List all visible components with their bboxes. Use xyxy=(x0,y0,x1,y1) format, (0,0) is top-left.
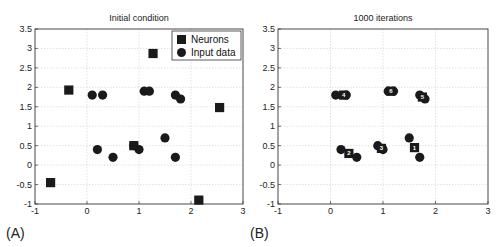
y-tick-label: 1 xyxy=(27,121,32,131)
y-tick-label: 3 xyxy=(270,43,275,53)
input-data-point xyxy=(160,133,169,142)
input-data-point xyxy=(145,87,154,96)
neuron-point xyxy=(64,85,73,94)
y-tick-label: -1 xyxy=(267,199,275,209)
input-data-point xyxy=(98,91,107,100)
figure: -10123-1-0.500.511.522.533.5Initial cond… xyxy=(0,0,502,247)
y-tick-label: -0.5 xyxy=(16,180,32,190)
y-tick-label: 2 xyxy=(27,82,32,92)
x-tick-label: 2 xyxy=(433,206,438,216)
legend-circle-icon xyxy=(177,48,186,57)
input-data-point xyxy=(108,153,117,162)
legend-label-input-data: Input data xyxy=(191,47,236,58)
y-tick-label: 1.5 xyxy=(262,102,275,112)
x-tick-label: 1 xyxy=(380,206,385,216)
x-tick-label: -1 xyxy=(31,206,39,216)
x-tick-label: 0 xyxy=(328,206,333,216)
legend-label-neurons: Neurons xyxy=(191,34,229,45)
y-tick-label: 3 xyxy=(27,43,32,53)
x-tick-label: 2 xyxy=(188,206,193,216)
input-data-point xyxy=(405,133,414,142)
input-data-point xyxy=(331,91,340,100)
neuron-point xyxy=(148,49,157,58)
x-tick-label: 3 xyxy=(240,206,245,216)
panel-a-initial-condition: -10123-1-0.500.511.522.533.5Initial cond… xyxy=(6,13,246,241)
panel-b-1000-iterations: -10123-1-0.500.511.522.533.51000 iterati… xyxy=(250,13,491,241)
y-tick-label: 3.5 xyxy=(19,24,32,34)
x-tick-label: -1 xyxy=(274,206,282,216)
neuron-point xyxy=(46,178,55,187)
neuron-point xyxy=(215,103,224,112)
input-data-point xyxy=(171,153,180,162)
y-tick-label: 1 xyxy=(270,121,275,131)
input-data-point xyxy=(93,145,102,154)
y-tick-label: 3.5 xyxy=(262,24,275,34)
y-tick-label: 0 xyxy=(270,160,275,170)
input-data-point xyxy=(88,91,97,100)
y-tick-label: 1.5 xyxy=(19,102,32,112)
y-tick-label: 2.5 xyxy=(262,63,275,73)
y-tick-label: 2 xyxy=(270,82,275,92)
chart-title: Initial condition xyxy=(109,13,169,23)
y-tick-label: 0.5 xyxy=(262,141,275,151)
y-tick-label: 2.5 xyxy=(19,63,32,73)
x-tick-label: 3 xyxy=(485,206,490,216)
x-tick-label: 1 xyxy=(136,206,141,216)
neuron-point xyxy=(129,141,138,150)
panel-label: (A) xyxy=(6,225,25,241)
input-data-point xyxy=(176,94,185,103)
x-tick-label: 0 xyxy=(84,206,89,216)
input-data-point xyxy=(352,153,361,162)
y-tick-label: 0 xyxy=(27,160,32,170)
panel-label: (B) xyxy=(250,225,269,241)
input-data-point xyxy=(336,145,345,154)
input-data-point xyxy=(415,153,424,162)
y-tick-label: 0.5 xyxy=(19,141,32,151)
legend-square-icon xyxy=(177,35,186,44)
y-tick-label: -1 xyxy=(24,199,32,209)
neuron-point xyxy=(194,196,203,205)
chart-title: 1000 iterations xyxy=(353,13,413,23)
y-tick-label: -0.5 xyxy=(259,180,275,190)
